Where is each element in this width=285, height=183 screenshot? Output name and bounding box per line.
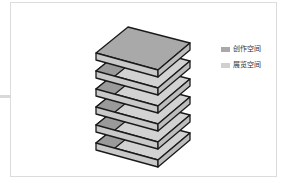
legend-swatch	[221, 47, 230, 52]
legend-swatch	[221, 63, 230, 68]
stacked-floors-diagram	[0, 0, 285, 183]
legend-item-creative-space: 创作空间	[221, 43, 261, 55]
legend-label: 展览空间	[233, 61, 261, 69]
legend-item-exhibition-space: 展览空间	[221, 59, 261, 71]
legend: 创作空间 展览空间	[221, 43, 261, 75]
legend-label: 创作空间	[233, 45, 261, 53]
